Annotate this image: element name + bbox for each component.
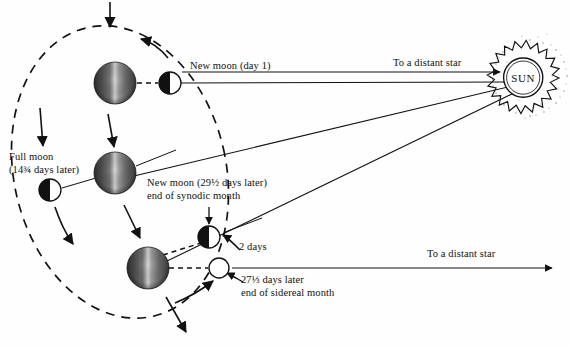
label-new-moon-synodic-line2: end of synodic month bbox=[147, 190, 240, 203]
earth-travel-arrow-2 bbox=[124, 205, 140, 238]
leader-earth-2-upper bbox=[136, 150, 176, 166]
earth-travel-arrow-1 bbox=[108, 114, 114, 147]
label-full-moon-line2: (14¾ days later) bbox=[9, 164, 79, 177]
leader-synodic-moon bbox=[225, 218, 262, 232]
sun-sight-lines bbox=[134, 82, 512, 262]
orbit-arrow-lower-left bbox=[55, 207, 73, 244]
leader-full-moon bbox=[62, 178, 96, 188]
label-new-moon-synodic-line1: New moon (29½ days later) bbox=[147, 177, 267, 190]
sun-line-from-earth-1 bbox=[181, 82, 512, 83]
sun-label: SUN bbox=[511, 72, 535, 84]
earth-moon-connectors bbox=[137, 83, 208, 268]
label-new-moon-day-1: New moon (day 1) bbox=[190, 60, 271, 73]
moon-sidereal bbox=[209, 258, 229, 278]
sun-line-from-earth-2 bbox=[134, 86, 512, 176]
label-two-days: 2 days bbox=[239, 241, 267, 254]
moon-new-day-1 bbox=[159, 72, 181, 94]
label-distant-star-bottom: To a distant star bbox=[427, 248, 495, 261]
earth-position-2 bbox=[94, 152, 136, 194]
sun-icon: SUN bbox=[487, 34, 568, 119]
diagram-canvas: SUN New moon (day 1) Full moon (14¾ days… bbox=[0, 0, 571, 346]
moon-new-synodic bbox=[198, 226, 220, 248]
label-full-moon-line1: Full moon bbox=[9, 151, 53, 164]
label-distant-star-top: To a distant star bbox=[393, 57, 461, 70]
two-days-arc-arrow bbox=[223, 235, 240, 250]
label-sidereal-line1: 27⅓ days later bbox=[241, 274, 304, 287]
earth-position-1 bbox=[94, 62, 136, 104]
orbit-arrow-left bbox=[40, 108, 43, 146]
moon-full bbox=[39, 179, 61, 201]
earth-position-3 bbox=[127, 247, 169, 289]
label-sidereal-line2: end of sidereal month bbox=[241, 287, 334, 300]
